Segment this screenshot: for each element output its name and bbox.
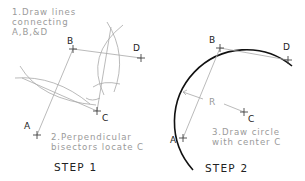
radius-label: R	[209, 97, 215, 107]
bisector-ab	[22, 78, 97, 111]
arc-ab-top	[15, 78, 90, 104]
step1-panel: B D A C 1.Draw lines connecting A,B,&D 2…	[12, 7, 145, 173]
chord-ab	[37, 49, 73, 135]
step1-note-draw-lines: 1.Draw lines connecting A,B,&D	[12, 7, 80, 37]
radius-line-right	[224, 104, 244, 112]
step2-panel: R B D A C 3.Draw circle with center C ST…	[170, 35, 292, 174]
point-a-marker	[33, 131, 41, 139]
point-b-label: B	[67, 36, 73, 46]
arc-ab-tick	[86, 98, 100, 100]
step2-title: STEP 2	[205, 162, 248, 174]
point-d-marker	[284, 56, 292, 64]
point-a-label: A	[170, 135, 177, 145]
arc-bd-right	[107, 22, 120, 92]
step1-title: STEP 1	[54, 161, 97, 173]
point-d-label: D	[133, 43, 140, 53]
point-b-marker	[216, 44, 224, 52]
point-d-label: D	[283, 42, 290, 52]
circle-arc	[174, 50, 292, 170]
point-a-marker	[179, 134, 187, 142]
circle-through-three-points-diagram: B D A C 1.Draw lines connecting A,B,&D 2…	[0, 0, 305, 181]
step2-note-draw-circle: 3.Draw circle with center C	[212, 127, 284, 147]
step1-note-bisectors: 2.Perpendicular bisectors locate C	[51, 132, 144, 152]
point-b-label: B	[209, 35, 215, 45]
point-d-marker	[137, 54, 145, 62]
chord-ab	[183, 48, 220, 138]
point-c-label: C	[102, 113, 108, 123]
point-a-label: A	[24, 121, 31, 131]
point-c-label: C	[248, 114, 254, 124]
point-b-marker	[69, 45, 77, 53]
bisector-bd	[97, 27, 111, 111]
point-c-marker	[240, 108, 248, 116]
radius-line-left	[183, 92, 203, 99]
point-c-marker	[93, 107, 101, 115]
